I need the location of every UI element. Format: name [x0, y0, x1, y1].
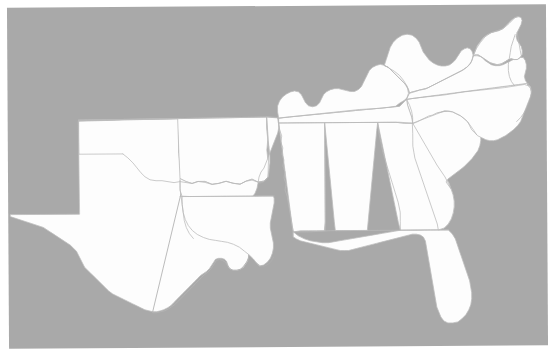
- outline-map-graphic: [0, 0, 553, 361]
- map-page: Southeastern United States Outline Map B…: [0, 0, 553, 361]
- map-plate: [7, 4, 548, 348]
- scanned-map-sheet: [0, 0, 553, 361]
